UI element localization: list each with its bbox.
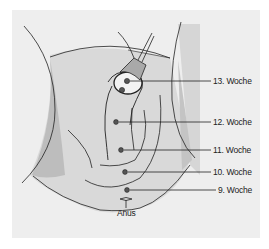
label-12-woche: 12. Woche: [213, 117, 252, 127]
label-10-woche: 10. Woche: [213, 167, 252, 177]
dot-11-woche: [119, 148, 124, 153]
dot-9-woche: [125, 188, 130, 193]
label-11-woche: 11. Woche: [213, 145, 251, 155]
label-13-woche: 13. Woche: [213, 76, 252, 86]
dot-12-woche: [114, 120, 119, 125]
label-9-woche: 9. Woche: [218, 185, 252, 195]
dot-10-woche: [123, 170, 128, 175]
dot-13-woche: [124, 78, 129, 83]
label-anus: Anus: [117, 208, 136, 218]
dot-13-woche-b: [119, 87, 124, 92]
